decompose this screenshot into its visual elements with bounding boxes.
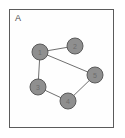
graph-node-label: 2 [73, 43, 77, 50]
graph-node-label: 3 [36, 84, 40, 91]
graph-node[interactable]: 2 [67, 38, 83, 54]
graph-node[interactable]: 3 [30, 79, 46, 95]
graph-node-label: 5 [93, 72, 97, 79]
graph-node-label: 4 [66, 98, 70, 105]
graph-node-label: 1 [38, 49, 42, 56]
figure-panel: A 12345 [0, 0, 125, 138]
graph-node[interactable]: 5 [87, 67, 103, 83]
graph-diagram: 12345 [9, 9, 114, 128]
graph-node-layer: 12345 [30, 38, 103, 109]
graph-node[interactable]: 1 [32, 44, 48, 60]
graph-edge [40, 52, 95, 75]
graph-node[interactable]: 4 [60, 93, 76, 109]
